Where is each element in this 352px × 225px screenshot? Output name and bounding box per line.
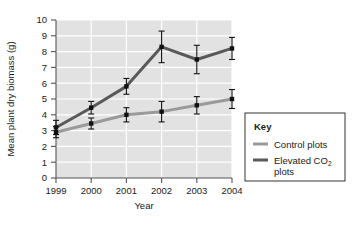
y-tick-label: 8 [42,46,47,57]
x-tick-label: 2003 [186,185,207,196]
data-marker-control [230,97,234,101]
y-tick-label: 4 [42,109,47,120]
data-marker-elevated [124,84,128,88]
y-tick-label: 9 [42,30,47,41]
x-tick-label: 2004 [221,185,242,196]
x-tick-label: 1999 [45,185,66,196]
y-tick-label: 7 [42,62,47,73]
data-marker-elevated [195,57,199,61]
legend-label-elevated-cont: plots [274,166,294,177]
data-marker-control [54,130,58,134]
data-marker-elevated [159,45,163,49]
y-tick-label: 6 [42,78,47,89]
data-marker-elevated [89,105,93,109]
y-tick-label: 5 [42,93,47,104]
legend-label-elevated-subscript: 2 [328,160,332,167]
legend-title: Key [254,121,272,132]
x-axis-title: Year [134,200,153,211]
legend-label-control: Control plots [274,139,328,150]
data-marker-control [124,113,128,117]
legend-label-elevated-main: Elevated CO [274,155,328,166]
y-tick-label: 3 [42,125,47,136]
x-tick-label: 2001 [116,185,137,196]
data-marker-control [89,121,93,125]
y-tick-label: 2 [42,141,47,152]
y-tick-label: 10 [36,14,47,25]
data-marker-elevated [230,46,234,50]
legend: Key Control plots Elevated CO2 plots [245,113,345,181]
data-marker-control [159,109,163,113]
data-marker-control [195,103,199,107]
x-tick-label: 2000 [81,185,102,196]
x-tick-label: 2002 [151,185,172,196]
chart-canvas: 012345678910 199920002001200220032004 Me… [0,0,352,225]
y-axis-title: Mean plant dry biomass (g) [5,41,16,156]
data-marker-elevated [54,125,58,129]
y-tick-label: 1 [42,157,47,168]
y-tick-label: 0 [42,172,47,183]
chart-figure: 012345678910 199920002001200220032004 Me… [0,0,352,225]
chart-svg: 012345678910 199920002001200220032004 Me… [0,0,352,225]
